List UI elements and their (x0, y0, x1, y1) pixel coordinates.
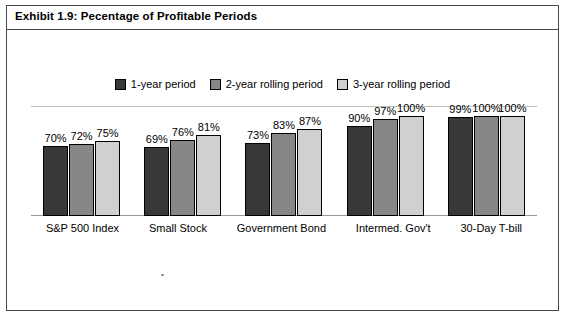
page-speck (161, 274, 164, 276)
bar (43, 146, 68, 216)
bar-value-label: 76% (172, 126, 194, 138)
legend-swatch-3-year (337, 79, 348, 90)
bar (170, 140, 195, 216)
bar (69, 144, 94, 216)
bar (500, 116, 525, 216)
legend-label-3-year: 3-year rolling period (353, 78, 450, 90)
legend-label-1-year: 1-year period (131, 78, 196, 90)
bar-group: 69%76%81% (144, 106, 221, 216)
category-label: 30-Day T-bill (460, 222, 522, 234)
bar-wrapper: 97% (373, 106, 398, 216)
bar (347, 126, 372, 216)
category-axis-labels: S&P 500 IndexSmall StockGovernment BondI… (31, 222, 537, 234)
bar (399, 116, 424, 216)
chart-legend: 1-year period 2-year rolling period 3-ye… (7, 78, 558, 90)
bar-value-label: 100% (498, 102, 526, 114)
bar-wrapper: 100% (500, 106, 525, 216)
exhibit-title-bar: Exhibit 1.9: Pecentage of Profitable Per… (7, 6, 558, 30)
bar-wrapper: 100% (474, 106, 499, 216)
bar (448, 117, 473, 216)
bar-value-label: 83% (273, 119, 295, 131)
category-label: S&P 500 Index (46, 222, 119, 234)
bar (196, 135, 221, 216)
exhibit-frame: Exhibit 1.9: Pecentage of Profitable Per… (6, 5, 559, 311)
bar-group: 99%100%100% (448, 106, 525, 216)
bar-value-label: 75% (97, 127, 119, 139)
bar-wrapper: 90% (347, 106, 372, 216)
bar-wrapper: 87% (297, 106, 322, 216)
legend-item-2-year: 2-year rolling period (210, 78, 323, 90)
screenshot-canvas: Exhibit 1.9: Pecentage of Profitable Per… (0, 0, 567, 324)
legend-label-2-year: 2-year rolling period (226, 78, 323, 90)
bar-wrapper: 70% (43, 106, 68, 216)
bar-group: 70%72%75% (43, 106, 120, 216)
bar-wrapper: 72% (69, 106, 94, 216)
bar-value-label: 100% (472, 102, 500, 114)
bar-value-label: 97% (374, 105, 396, 117)
bar-value-label: 99% (449, 103, 471, 115)
bar-wrapper: 100% (399, 106, 424, 216)
bar-wrapper: 99% (448, 106, 473, 216)
bar (271, 133, 296, 216)
page-title: Exhibit 1.9: Pecentage of Profitable Per… (15, 10, 257, 22)
bar-value-label: 69% (146, 133, 168, 145)
bar-group: 90%97%100% (347, 106, 424, 216)
bar-wrapper: 83% (271, 106, 296, 216)
bar-wrapper: 73% (245, 106, 270, 216)
category-label: Government Bond (237, 222, 326, 234)
legend-swatch-2-year (210, 79, 221, 90)
bar-value-label: 73% (247, 129, 269, 141)
category-label: Small Stock (149, 222, 207, 234)
bar-wrapper: 76% (170, 106, 195, 216)
legend-item-3-year: 3-year rolling period (337, 78, 450, 90)
bar-value-label: 70% (45, 132, 67, 144)
bar-value-label: 72% (71, 130, 93, 142)
bar-group: 73%83%87% (245, 106, 322, 216)
bar-value-label: 100% (397, 102, 425, 114)
bar-value-label: 90% (348, 112, 370, 124)
legend-swatch-1-year (115, 79, 126, 90)
bar (95, 141, 120, 216)
bar (297, 129, 322, 216)
bar-value-label: 87% (299, 115, 321, 127)
bar-wrapper: 75% (95, 106, 120, 216)
category-label: Intermed. Gov't (356, 222, 431, 234)
bar (474, 116, 499, 216)
bar-wrapper: 69% (144, 106, 169, 216)
bar-groups: 70%72%75%69%76%81%73%83%87%90%97%100%99%… (31, 106, 537, 216)
bar-value-label: 81% (198, 121, 220, 133)
bar-wrapper: 81% (196, 106, 221, 216)
bar (144, 147, 169, 216)
bar (373, 119, 398, 216)
legend-item-1-year: 1-year period (115, 78, 196, 90)
bar (245, 143, 270, 216)
plot-area: 70%72%75%69%76%81%73%83%87%90%97%100%99%… (31, 106, 537, 216)
